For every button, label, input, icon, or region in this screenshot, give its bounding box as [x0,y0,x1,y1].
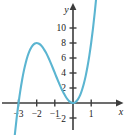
y-tick-label-6: 6 [61,53,66,63]
y-tick-label--2: −2 [56,114,66,124]
y-tick-label-4: 4 [61,68,66,78]
x-axis-label: x [118,106,124,117]
plot-canvas: −3 −2 −1 1 2 4 6 8 10 −2 x y [0,0,127,135]
y-axis-arrow-icon [70,3,77,10]
x-tick-label--2: −2 [32,109,42,119]
function-graph-figure: −3 −2 −1 1 2 4 6 8 10 −2 x y [0,0,127,135]
y-tick-label-8: 8 [61,38,66,48]
y-tick-label-10: 10 [57,23,67,33]
x-tick-label-1: 1 [89,109,94,119]
y-axis [70,3,77,130]
y-axis-label: y [63,4,69,15]
x-axis [2,100,124,107]
